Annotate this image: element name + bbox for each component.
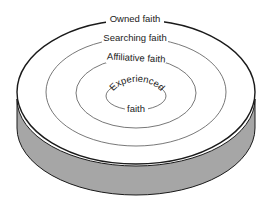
label-owned-faith: Owned faith <box>110 13 161 24</box>
label-experienced-faith: faith <box>127 103 145 114</box>
label-searching-faith: Searching faith <box>103 32 166 43</box>
faith-disc-diagram: Owned faith Searching faith Affiliative … <box>0 0 267 205</box>
